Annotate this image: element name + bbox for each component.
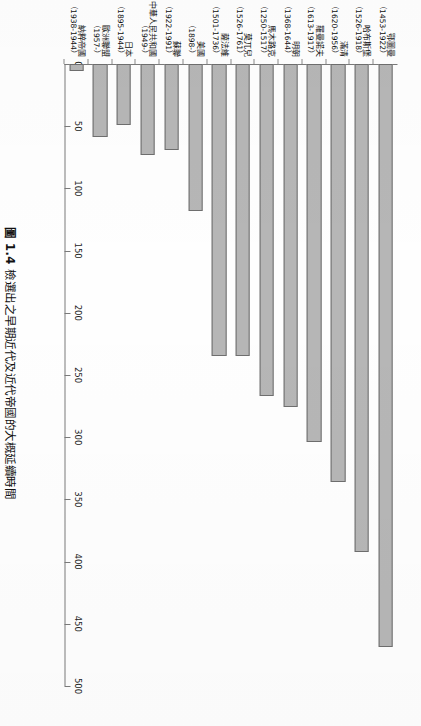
bar-薩法維 (211, 64, 225, 356)
bar-羅曼諾夫 (307, 64, 321, 442)
bar-美國 (188, 64, 202, 211)
category-label: 馬木路克（1250-1517） (258, 2, 274, 57)
category-label-years: （1501-1736） (210, 2, 218, 57)
bar-row: 中華人民共和國（1949-） (135, 64, 159, 686)
category-tick (63, 59, 64, 64)
bar-莫兀兒 (235, 64, 249, 356)
bar-馬木路克 (259, 64, 273, 396)
category-label: 莫兀兒（1526-1761） (234, 2, 250, 57)
bar-日本 (116, 64, 130, 125)
figure-page: 050100150200250300350400450500 鄂圖曼（1453-… (0, 0, 421, 726)
category-label: 明朝（1368-1644） (282, 2, 298, 57)
bar-納粹帝國 (69, 64, 83, 71)
bar-滿清 (330, 64, 344, 482)
bar-哈布斯堡 (354, 64, 368, 552)
category-label: 鄂圖曼（1453-1922） (377, 2, 393, 57)
bar-row: 莫兀兒（1526-1761） (231, 64, 255, 686)
category-label: 薩法維（1501-1736） (210, 2, 226, 57)
bar-row: 蘇聯（1922-1991） (159, 64, 183, 686)
category-label-years: （1957-） (92, 21, 100, 57)
bar-rows: 鄂圖曼（1453-1922）哈布斯堡（1526-1918）滿清（1620-195… (64, 64, 397, 686)
bar-row: 薩法維（1501-1736） (207, 64, 231, 686)
category-label: 羅曼諾夫（1613-1917） (306, 2, 322, 57)
category-label-years: （1949-） (139, 1, 147, 57)
bar-蘇聯 (164, 64, 178, 150)
figure-caption-text: 檢選出之早期近代及近代帝國的大概延續時間 (2, 269, 16, 499)
category-label-years: （1250-1517） (258, 2, 266, 57)
bar-row: 歐洲聯盟（1957-） (88, 64, 112, 686)
bar-中華人民共和國 (140, 64, 154, 155)
category-label-years: （1938-1944） (68, 2, 76, 57)
category-label-years: （1526-1761） (234, 2, 242, 57)
bar-歐洲聯盟 (93, 64, 107, 137)
bar-row: 日本（1895-1944） (112, 64, 136, 686)
category-label: 歐洲聯盟（1957-） (92, 21, 108, 57)
bar-row: 美國（1898-） (183, 64, 207, 686)
category-label-years: （1613-1917） (306, 2, 314, 57)
category-label-years: （1368-1644） (282, 2, 290, 57)
bar-row: 納粹帝國（1938-1944） (64, 64, 88, 686)
category-label: 納粹帝國（1938-1944） (68, 2, 84, 57)
category-label: 美國（1898-） (187, 21, 203, 57)
bar-row: 明朝（1368-1644） (278, 64, 302, 686)
category-label-years: （1895-1944） (115, 2, 123, 57)
bar-chart-plot-area: 050100150200250300350400450500 鄂圖曼（1453-… (64, 64, 397, 686)
category-label-years: （1453-1922） (377, 2, 385, 57)
category-label-years: （1898-） (187, 21, 195, 57)
bar-row: 羅曼諾夫（1613-1917） (302, 64, 326, 686)
category-label-years: （1922-1991） (163, 2, 171, 57)
category-label-years: （1526-1918） (353, 2, 361, 57)
bar-明朝 (283, 64, 297, 407)
category-label: 滿清（1620-1956） (329, 2, 345, 57)
figure-number: 圖 1.4 (2, 227, 16, 265)
rotated-figure-canvas: 050100150200250300350400450500 鄂圖曼（1453-… (0, 0, 421, 726)
bar-鄂圖曼 (378, 64, 392, 647)
category-label-years: （1620-1956） (329, 2, 337, 57)
bar-row: 哈布斯堡（1526-1918） (349, 64, 373, 686)
bar-row: 馬木路克（1250-1517） (254, 64, 278, 686)
category-label: 日本（1895-1944） (115, 2, 131, 57)
value-tick-500 (64, 686, 70, 687)
category-label: 哈布斯堡（1526-1918） (353, 2, 369, 57)
bar-row: 鄂圖曼（1453-1922） (373, 64, 397, 686)
category-label: 蘇聯（1922-1991） (163, 2, 179, 57)
figure-caption: 圖 1.4 檢選出之早期近代及近代帝國的大概延續時間 (2, 0, 18, 726)
category-label: 中華人民共和國（1949-） (139, 1, 155, 57)
bar-row: 滿清（1620-1956） (326, 64, 350, 686)
